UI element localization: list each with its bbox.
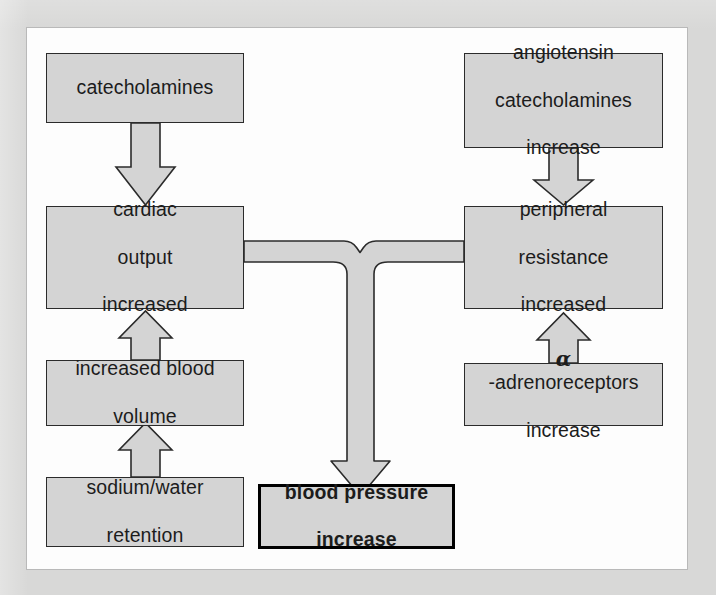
node-increased-blood-volume[interactable]: increased blood volume — [46, 360, 244, 426]
flow-diagram: catecholamines angiotensin catecholamine… — [0, 0, 716, 595]
node-sodium-water-label: sodium/water retention — [53, 476, 237, 547]
node-cardiac-output-label: cardiac output increased — [53, 198, 237, 317]
node-angiotensin-line-2: catecholamines — [471, 89, 656, 113]
node-alpha-adrenoreceptors-increase[interactable]: α-adrenoreceptors increase — [464, 363, 663, 426]
node-cardiac-output-line-3: increased — [53, 293, 237, 317]
node-angiotensin-line-3: increase — [471, 136, 656, 160]
node-blood-volume-line-1: increased blood — [53, 357, 237, 381]
node-adrenoreceptors-line-1: -adrenoreceptors — [471, 371, 656, 395]
node-adrenoreceptors-line-2: increase — [471, 419, 656, 443]
node-sodium-water-retention[interactable]: sodium/water retention — [46, 477, 244, 547]
node-blood-volume-line-2: volume — [53, 405, 237, 429]
node-peripheral-resistance-increased[interactable]: peripheral resistance increased — [464, 206, 663, 309]
node-cardiac-output-line-1: cardiac — [53, 198, 237, 222]
node-angiotensin-line-1: angiotensin — [471, 41, 656, 65]
node-catecholamines[interactable]: catecholamines — [46, 53, 244, 123]
node-blood-pressure-label: blood pressure increase — [267, 481, 446, 552]
arrow-blood-volume-to-cardiac-output — [119, 311, 172, 360]
arrow-catecholamines-to-cardiac-output — [116, 123, 175, 205]
node-sodium-water-line-2: retention — [53, 524, 237, 548]
merge-junction-to-blood-pressure — [244, 241, 464, 496]
node-blood-volume-label: increased blood volume — [53, 357, 237, 428]
node-adrenoreceptors-label: α-adrenoreceptors increase — [471, 347, 656, 443]
node-angiotensin-label: angiotensin catecholamines increase — [471, 41, 656, 160]
node-angiotensin-catecholamines-increase[interactable]: angiotensin catecholamines increase — [464, 53, 663, 148]
node-peripheral-line-2: resistance — [471, 246, 656, 270]
node-catecholamines-label: catecholamines — [53, 76, 237, 100]
node-peripheral-resistance-label: peripheral resistance increased — [471, 198, 656, 317]
node-cardiac-output-increased[interactable]: cardiac output increased — [46, 206, 244, 309]
alpha-symbol: α — [471, 347, 656, 371]
node-blood-pressure-line-1: blood pressure — [267, 481, 446, 505]
node-blood-pressure-line-2: increase — [267, 528, 446, 552]
node-sodium-water-line-1: sodium/water — [53, 476, 237, 500]
node-cardiac-output-line-2: output — [53, 246, 237, 270]
diagram-page: catecholamines angiotensin catecholamine… — [0, 0, 716, 595]
arrow-sodium-water-to-blood-volume — [119, 423, 172, 477]
node-peripheral-line-3: increased — [471, 293, 656, 317]
node-blood-pressure-increase[interactable]: blood pressure increase — [258, 484, 455, 549]
node-peripheral-line-1: peripheral — [471, 198, 656, 222]
